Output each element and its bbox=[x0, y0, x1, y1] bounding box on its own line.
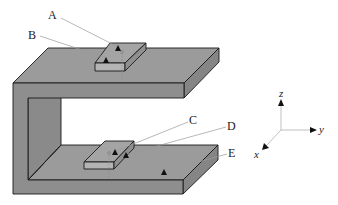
y-axis-label: y bbox=[318, 123, 324, 135]
label-A: A bbox=[48, 8, 57, 22]
y-axis-arrow-icon bbox=[310, 127, 317, 133]
leader-A bbox=[61, 18, 118, 47]
lower-sensor-front bbox=[84, 162, 114, 169]
label-D: D bbox=[227, 119, 236, 133]
label-C: C bbox=[189, 113, 197, 127]
x-axis-line bbox=[266, 130, 281, 146]
x-axis-label: x bbox=[253, 148, 259, 160]
z-axis-arrow-icon bbox=[278, 99, 284, 106]
label-E: E bbox=[228, 146, 235, 160]
label-B: B bbox=[28, 28, 36, 42]
yoke-diagram: A B C D E z y x bbox=[0, 0, 338, 205]
upper-sensor-front bbox=[95, 63, 125, 71]
coordinate-frame: z y x bbox=[253, 87, 324, 160]
z-axis-label: z bbox=[278, 87, 284, 99]
